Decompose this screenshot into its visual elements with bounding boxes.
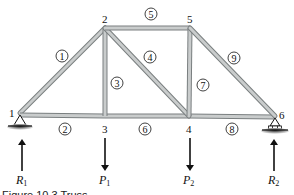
node-label-3: 3 xyxy=(102,123,108,135)
member-8 xyxy=(189,116,275,117)
member-label-2: 2 xyxy=(59,123,71,135)
member-label-1: 1 xyxy=(56,50,68,62)
member-label-5: 5 xyxy=(145,8,157,20)
member-label-6: 6 xyxy=(139,123,151,135)
truss-diagram: 1 2 3 4 5 6 1 2 3 4 5 6 xyxy=(0,0,294,195)
node-label-5: 5 xyxy=(187,13,193,25)
svg-text:3: 3 xyxy=(115,78,120,89)
force-label-r2: R2 xyxy=(267,173,279,188)
svg-text:9: 9 xyxy=(232,53,237,64)
member-label-4: 4 xyxy=(144,51,156,63)
node-label-2: 2 xyxy=(102,13,108,25)
member-label-3: 3 xyxy=(111,77,123,89)
figure-caption: Figure 10.3 Truss xyxy=(2,189,88,195)
member-2 xyxy=(20,115,105,116)
force-label-r1: R1 xyxy=(15,173,27,188)
node-label-4: 4 xyxy=(186,123,192,135)
svg-text:1: 1 xyxy=(60,51,65,62)
member-1 xyxy=(20,28,105,113)
member-label-8: 8 xyxy=(226,123,238,135)
svg-text:8: 8 xyxy=(230,124,235,135)
member-label-7: 7 xyxy=(197,79,209,91)
member-label-9: 9 xyxy=(228,52,240,64)
svg-text:2: 2 xyxy=(63,124,68,135)
force-label-p2: P2 xyxy=(182,173,194,188)
node-label-1: 1 xyxy=(9,107,15,119)
member-4 xyxy=(105,28,189,116)
force-arrows xyxy=(22,138,274,171)
svg-text:4: 4 xyxy=(148,52,153,63)
force-labels: R1 P1 P2 R2 xyxy=(15,173,279,188)
force-label-p1: P1 xyxy=(98,173,110,188)
member-9 xyxy=(190,28,275,116)
truss-members xyxy=(20,28,275,117)
svg-text:5: 5 xyxy=(149,9,154,20)
node-label-6: 6 xyxy=(279,109,285,121)
svg-text:7: 7 xyxy=(201,80,206,91)
member-7 xyxy=(189,28,190,116)
roller-support-node-6 xyxy=(261,118,289,134)
svg-text:6: 6 xyxy=(143,124,148,135)
